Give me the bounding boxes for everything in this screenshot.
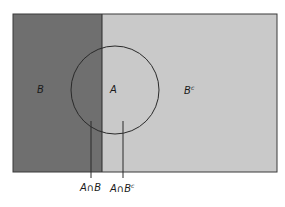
label-b-text: B: [37, 84, 44, 95]
label-b-complement-text: B: [184, 85, 191, 96]
label-a-intersect-b-text: A∩B: [80, 182, 101, 193]
label-a: A: [110, 85, 117, 95]
label-a-intersect-b-complement-text: A∩B: [110, 183, 131, 194]
b-region: [13, 14, 102, 172]
venn-diagram: [0, 0, 285, 207]
label-b-complement: Bc: [184, 85, 194, 96]
label-a-intersect-b-complement-superscript: c: [131, 182, 134, 189]
label-a-intersect-b: A∩B: [80, 183, 101, 193]
label-b-complement-superscript: c: [191, 84, 194, 91]
label-b: B: [37, 85, 44, 95]
label-a-intersect-b-complement: A∩Bc: [110, 183, 134, 194]
label-a-text: A: [110, 84, 117, 95]
